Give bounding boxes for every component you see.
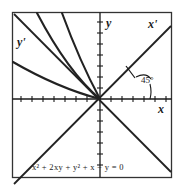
x-prime-axis-label: x' bbox=[147, 17, 158, 31]
x-axis-label: x bbox=[157, 102, 164, 116]
conic-plot-svg: y x x' y' 45° x² + 2xy + y² + x − y = 0 bbox=[0, 0, 184, 190]
y-prime-axis-label: y' bbox=[15, 35, 26, 49]
equation-label: x² + 2xy + y² + x − y = 0 bbox=[32, 162, 124, 172]
y-axis-label: y bbox=[104, 16, 112, 30]
angle-label: 45° bbox=[141, 75, 154, 85]
figure-container: y x x' y' 45° x² + 2xy + y² + x − y = 0 bbox=[0, 0, 184, 190]
